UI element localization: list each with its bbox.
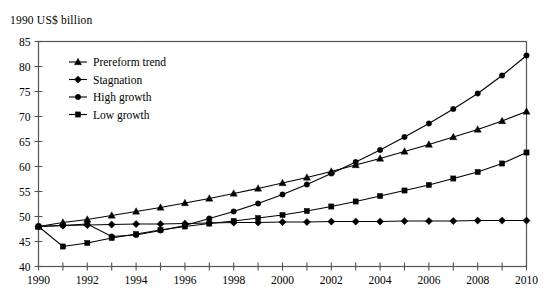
y-tick-label: 80 (19, 61, 31, 73)
series-line (39, 153, 527, 247)
chart-plot-area: 40455055606570758085 1990199219941996199… (0, 0, 549, 302)
data-point-marker (158, 227, 163, 232)
legend-label: Low growth (93, 109, 150, 122)
data-point-marker (353, 199, 358, 204)
data-point-marker (255, 215, 260, 220)
data-point-marker (401, 217, 408, 224)
y-tick-label: 55 (19, 186, 31, 198)
chart-legend: Prereform trendStagnationHigh growthLow … (69, 56, 166, 122)
y-tick-label: 45 (19, 236, 31, 248)
y-tick-label: 65 (19, 136, 31, 148)
x-tick-label: 1994 (125, 274, 148, 286)
data-point-marker (499, 161, 504, 166)
line-chart: 1990 US$ billion 40455055606570758085 19… (0, 0, 549, 302)
data-point-marker (451, 176, 456, 181)
x-tick-label: 1996 (173, 274, 196, 286)
data-point-marker (304, 182, 310, 188)
data-point-marker (231, 209, 237, 215)
legend-item-prereform-trend[interactable]: Prereform trend (69, 56, 166, 68)
data-point-marker (85, 221, 91, 227)
x-tick-label: 2010 (515, 274, 538, 286)
y-tick-label: 40 (19, 261, 31, 273)
data-point-marker (499, 73, 505, 79)
legend-label: High growth (93, 91, 152, 104)
data-point-marker (402, 188, 407, 193)
data-point-marker (451, 106, 457, 112)
data-point-marker (132, 220, 139, 227)
data-point-marker (425, 217, 432, 224)
legend-label: Stagnation (93, 74, 142, 87)
x-tick-label: 2008 (466, 274, 489, 286)
y-tick-label: 85 (19, 36, 31, 48)
data-point-marker (450, 217, 457, 224)
data-point-marker (475, 169, 480, 174)
series-prereform-trend (35, 108, 530, 229)
x-tick-label: 1998 (222, 274, 245, 286)
data-point-marker (523, 108, 530, 114)
data-point-marker (207, 221, 212, 226)
data-point-marker (182, 224, 187, 229)
series-line (39, 112, 527, 227)
data-point-marker (109, 235, 114, 240)
x-tick-label: 2002 (320, 274, 343, 286)
data-point-marker (279, 218, 286, 225)
x-tick-label: 2004 (369, 274, 392, 286)
data-point-marker (157, 220, 164, 227)
x-tick-label: 2000 (271, 274, 294, 286)
data-point-marker (377, 147, 383, 153)
data-point-marker (402, 134, 408, 140)
data-point-marker (377, 193, 382, 198)
data-point-marker (474, 217, 481, 224)
data-point-marker (74, 76, 81, 83)
data-point-marker (303, 218, 310, 225)
data-point-marker (60, 223, 66, 229)
x-tick-label: 2006 (417, 274, 440, 286)
data-point-marker (329, 204, 334, 209)
data-point-marker (352, 218, 359, 225)
y-tick-label: 50 (19, 211, 31, 223)
y-tick-label: 70 (19, 111, 31, 123)
legend-item-high-growth[interactable]: High growth (69, 91, 152, 104)
data-point-marker (475, 91, 481, 97)
legend-item-low-growth[interactable]: Low growth (69, 109, 150, 122)
data-point-marker (60, 244, 65, 249)
data-point-marker (231, 218, 236, 223)
data-point-marker (328, 218, 335, 225)
legend-item-stagnation[interactable]: Stagnation (69, 74, 142, 87)
data-point-marker (353, 159, 359, 165)
data-point-marker (304, 208, 309, 213)
data-point-marker (426, 182, 431, 187)
data-point-marker (280, 192, 286, 198)
data-point-marker (75, 112, 80, 117)
data-point-marker (36, 224, 41, 229)
data-point-marker (376, 218, 383, 225)
legend-label: Prereform trend (93, 56, 166, 68)
data-point-marker (524, 53, 530, 59)
data-point-marker (329, 171, 335, 177)
data-point-marker (426, 121, 432, 127)
x-tick-label: 1990 (27, 274, 50, 286)
data-point-marker (133, 231, 138, 236)
data-point-marker (280, 212, 285, 217)
series-stagnation (35, 217, 530, 230)
data-point-marker (108, 221, 115, 228)
y-tick-label: 60 (19, 161, 31, 173)
data-point-marker (207, 216, 213, 222)
data-point-marker (498, 217, 505, 224)
y-tick-label: 75 (19, 86, 31, 98)
data-point-marker (255, 201, 261, 207)
data-point-marker (85, 240, 90, 245)
data-point-marker (75, 94, 81, 100)
data-point-marker (523, 217, 530, 224)
x-tick-label: 1992 (76, 274, 99, 286)
data-point-marker (524, 150, 529, 155)
